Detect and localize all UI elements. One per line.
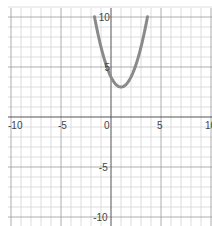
graph: -10-50510105-5-10 <box>0 0 212 226</box>
x-tick-label: -5 <box>58 120 67 131</box>
x-tick-label: 5 <box>157 120 163 131</box>
y-tick-label: 5 <box>104 62 110 73</box>
x-tick-label: -10 <box>8 120 23 131</box>
y-tick-label: -5 <box>99 162 108 173</box>
y-tick-label: 10 <box>99 12 111 23</box>
y-tick-label: -10 <box>93 212 108 223</box>
x-tick-label: 0 <box>104 120 110 131</box>
x-tick-label: 10 <box>205 120 212 131</box>
